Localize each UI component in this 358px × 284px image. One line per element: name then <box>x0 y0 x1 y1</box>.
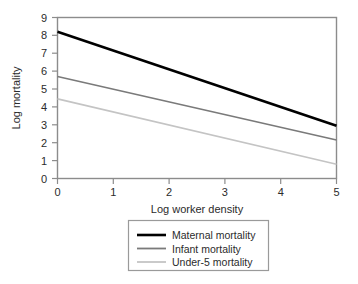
y-tick-label-1: 1 <box>41 155 47 167</box>
x-tick-label-5: 5 <box>333 186 339 198</box>
legend-label-infant-mortality: Infant mortality <box>172 243 242 255</box>
legend-label-maternal-mortality: Maternal mortality <box>172 229 256 241</box>
y-tick-label-2: 2 <box>41 137 47 149</box>
y-axis-title: Log mortality <box>10 66 22 129</box>
y-tick-label-8: 8 <box>41 29 47 41</box>
chart-figure: 0 1 2 3 4 5 6 7 8 9 0 1 2 3 4 5 <box>0 0 358 284</box>
x-tick-label-1: 1 <box>110 186 116 198</box>
x-tick-label-3: 3 <box>222 186 228 198</box>
y-tick-label-4: 4 <box>41 101 47 113</box>
y-tick-label-5: 5 <box>41 83 47 95</box>
x-tick-label-0: 0 <box>54 186 60 198</box>
y-tick-label-0: 0 <box>41 173 47 185</box>
y-tick-label-3: 3 <box>41 119 47 131</box>
legend-label-under5-mortality: Under-5 mortality <box>172 256 253 268</box>
x-axis-title: Log worker density <box>151 203 244 215</box>
x-tick-label-4: 4 <box>278 186 284 198</box>
y-tick-label-9: 9 <box>41 12 47 24</box>
mortality-line-chart: 0 1 2 3 4 5 6 7 8 9 0 1 2 3 4 5 <box>0 0 358 284</box>
y-tick-label-6: 6 <box>41 65 47 77</box>
y-tick-label-7: 7 <box>41 47 47 59</box>
x-tick-label-2: 2 <box>166 186 172 198</box>
legend: Maternal mortality Infant mortality Unde… <box>129 221 269 271</box>
